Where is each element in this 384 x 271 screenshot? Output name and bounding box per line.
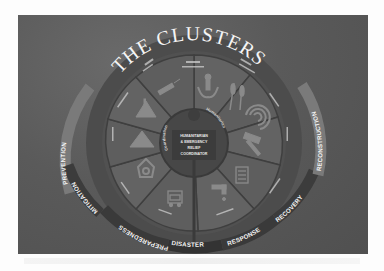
clusters-wheel-svg: HUMANITARIAN & EMERGENCY RELIEF COORDINA… [18, 15, 368, 254]
center-line-1: HUMANITARIAN [180, 134, 208, 138]
center-line-4: COORDINATOR [181, 152, 208, 156]
center-line-3: RELIEF [188, 146, 202, 150]
center-line-2: & EMERGENCY [181, 140, 208, 144]
clusters-diagram: HUMANITARIAN & EMERGENCY RELIEF COORDINA… [18, 15, 368, 254]
bottom-caption-blur [24, 258, 360, 264]
globe-icon [188, 109, 200, 121]
